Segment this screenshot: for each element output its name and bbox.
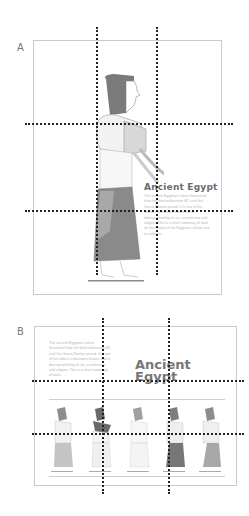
panel-b-label: B	[17, 326, 24, 337]
figure-row	[45, 405, 231, 477]
guide-horizontal-b2	[32, 433, 244, 435]
figure-variant-3-icon	[125, 405, 155, 477]
panel-a-frame: Ancient Egypt The ancient Egyptian cultu…	[33, 40, 222, 295]
figure-variant-1-icon	[49, 405, 79, 477]
figure-row-top-rule	[49, 399, 225, 400]
guide-vertical-b1	[102, 318, 104, 494]
figure-variant-4-icon	[161, 405, 191, 477]
guide-vertical-b2	[168, 318, 170, 494]
panel-a-label: A	[17, 42, 24, 53]
guide-horizontal-b1	[32, 380, 244, 382]
guide-vertical-a1	[96, 27, 98, 275]
egyptian-figure-icon	[54, 71, 164, 291]
guide-horizontal-a2	[25, 210, 233, 212]
figure-variant-5-icon	[197, 405, 227, 477]
guide-vertical-a2	[156, 27, 158, 275]
panel-b-frame: The ancient Egyptian culture flourished …	[34, 326, 237, 486]
figure-row-bottom-rule	[49, 476, 225, 477]
panel-a-body: The ancient Egyptian culture flourished …	[144, 194, 210, 237]
guide-horizontal-a1	[25, 123, 233, 125]
